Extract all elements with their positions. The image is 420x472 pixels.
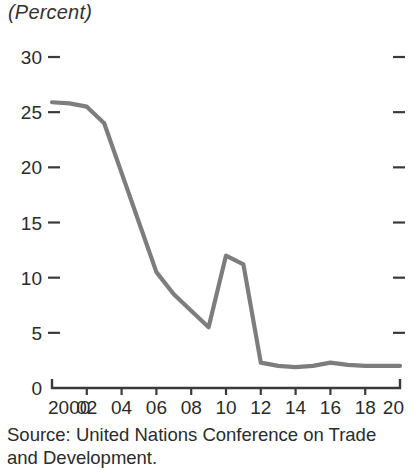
y-axis-tick-label: 10 [21,268,42,289]
y-axis-tick-label: 15 [21,213,42,234]
x-axis-tick-label: 04 [111,397,133,418]
x-axis-tick-label: 18 [355,397,376,418]
y-axis-tick-marks-right [393,57,405,333]
data-series-line [52,102,400,367]
x-axis-tick-label: 06 [146,397,167,418]
source-note: Source: United Nations Conference on Tra… [7,423,419,469]
y-axis-tick-labels: 051015202530 [21,47,42,399]
y-axis-tick-label: 25 [21,102,42,123]
x-axis-tick-label: 08 [181,397,202,418]
chart-axis-line [52,379,400,388]
line-chart-plot: 051015202530 200002040608101214161820 [0,0,420,420]
x-axis-tick-label: 12 [250,397,271,418]
y-axis-tick-marks-left [48,57,60,333]
x-axis-tick-label: 02 [76,397,97,418]
x-axis-tick-label: 10 [215,397,236,418]
y-axis-tick-label: 20 [21,157,42,178]
y-axis-tick-label: 0 [31,378,42,399]
x-axis-tick-labels: 200002040608101214161820 [48,397,404,418]
y-axis-tick-label: 5 [31,323,42,344]
x-axis-tick-label: 14 [285,397,307,418]
x-axis-tick-label: 16 [320,397,341,418]
x-axis-tick-label: 20 [383,397,404,418]
chart-figure: (Percent) 051015202530 20000204060810121… [0,0,420,472]
y-axis-tick-label: 30 [21,47,42,68]
